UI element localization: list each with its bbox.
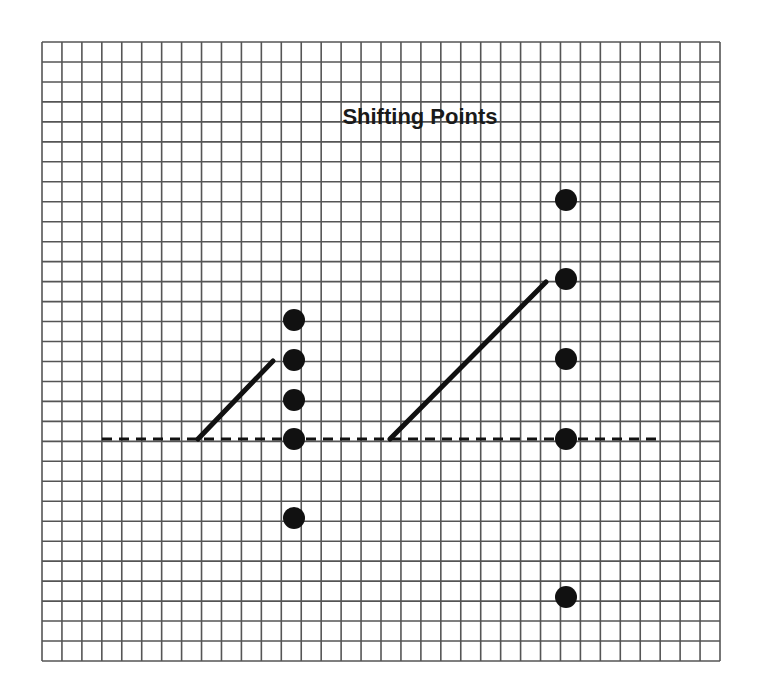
data-point [555, 348, 577, 370]
data-point [283, 507, 305, 529]
data-point [283, 428, 305, 450]
shifting-points-diagram: Shifting Points [0, 0, 758, 686]
data-point [555, 428, 577, 450]
diagram-title: Shifting Points [342, 104, 497, 129]
data-point [555, 268, 577, 290]
data-point [555, 586, 577, 608]
paper-background [0, 0, 758, 686]
data-point [283, 309, 305, 331]
data-point [283, 349, 305, 371]
data-point [555, 189, 577, 211]
data-point [283, 389, 305, 411]
